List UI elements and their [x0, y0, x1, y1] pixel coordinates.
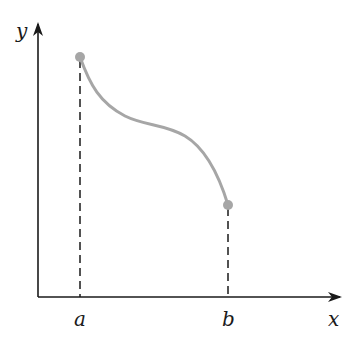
label-b: b: [222, 307, 235, 331]
function-curve: [80, 57, 228, 205]
function-graph: y x a b: [0, 0, 356, 343]
label-a: a: [74, 307, 86, 331]
x-axis-label: x: [328, 307, 339, 331]
endpoint-a-marker: [75, 52, 85, 62]
y-axis-label: y: [15, 19, 28, 43]
endpoint-b-marker: [223, 200, 233, 210]
